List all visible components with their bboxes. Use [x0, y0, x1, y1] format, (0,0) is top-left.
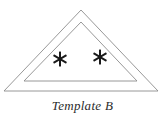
template-figure: Template B — [0, 0, 165, 139]
left-asterisk-mark — [53, 51, 67, 66]
figure-caption: Template B — [0, 98, 165, 114]
right-asterisk-mark — [93, 49, 107, 64]
nested-triangle-diagram — [0, 0, 165, 139]
